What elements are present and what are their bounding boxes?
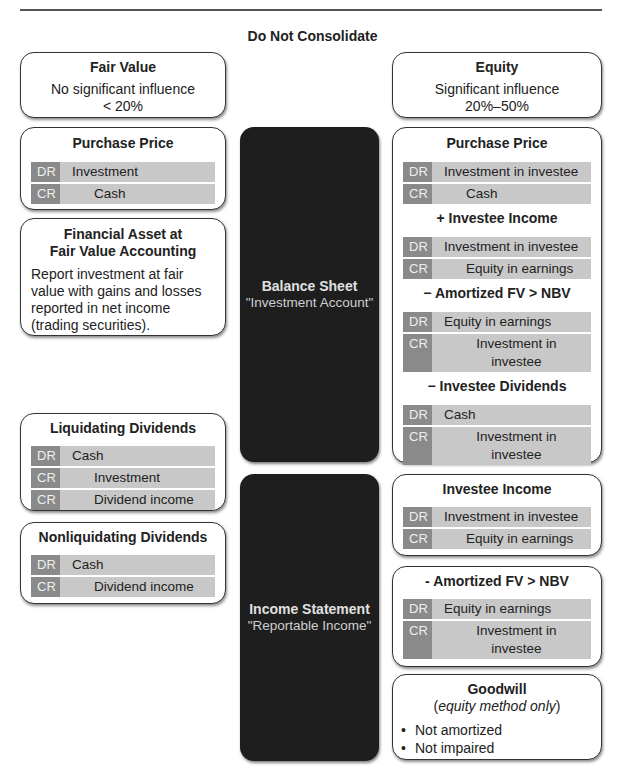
inc-investee-income-title: Investee Income <box>393 481 601 498</box>
equity-line1: Significant influence <box>393 81 601 98</box>
equity-title: Equity <box>393 59 601 76</box>
account-name: Investment in investee <box>432 237 591 257</box>
equity-header-box: Equity Significant influence 20%–50% <box>392 52 602 118</box>
liquidating-title: Liquidating Dividends <box>21 420 225 437</box>
goodwill-title: Goodwill <box>393 681 601 698</box>
eq-investee-income-title: + Investee Income <box>393 210 601 227</box>
journal-entry: DRCash <box>31 446 215 466</box>
debit-tag: DR <box>403 162 432 182</box>
equity-amortized-box: - Amortized FV > NBV DREquity in earning… <box>392 566 602 667</box>
income-statement-panel: Income Statement "Reportable Income" <box>240 474 379 761</box>
inc-amortized-title: - Amortized FV > NBV <box>393 573 601 590</box>
income-statement-title: Income Statement <box>240 601 379 618</box>
fair-value-title: Fair Value <box>21 59 225 76</box>
journal-entry: CREquity in earnings <box>403 259 591 279</box>
credit-tag: CR <box>31 577 60 597</box>
credit-tag: CR <box>31 490 60 510</box>
credit-tag: CR <box>403 529 432 549</box>
debit-tag: DR <box>403 405 432 425</box>
fv-purchase-price-box: Purchase Price DRInvestment CRCash <box>20 127 226 210</box>
nonliquidating-dividends-box: Nonliquidating Dividends DRCash CRDivide… <box>20 522 226 604</box>
fv-purchase-price-title: Purchase Price <box>21 135 225 152</box>
account-name: Investment <box>60 468 215 488</box>
journal-entry: CRCash <box>403 184 591 204</box>
financial-asset-title-1: Financial Asset at <box>21 226 225 243</box>
journal-entry: CRInvestment in investee <box>403 621 591 659</box>
journal-entry: CRDividend income <box>31 577 215 597</box>
diagram-title: Do Not Consolidate <box>0 28 625 44</box>
journal-entry: DRInvestment in investee <box>403 237 591 257</box>
equity-investee-income-box: Investee Income DRInvestment in investee… <box>392 474 602 556</box>
account-name: Cash <box>60 184 215 204</box>
goodwill-box: Goodwill (equity method only) Not amorti… <box>392 674 602 760</box>
account-name: Equity in earnings <box>432 259 591 279</box>
account-name: Equity in earnings <box>432 312 591 332</box>
account-name: Cash <box>432 405 591 425</box>
top-rule <box>20 9 602 11</box>
bullet-item: Not amortized <box>401 721 593 739</box>
account-name: Cash <box>432 184 591 204</box>
account-name: Investment in investee <box>432 427 591 465</box>
credit-tag: CR <box>403 621 432 659</box>
fair-value-line1: No significant influence <box>21 81 225 98</box>
journal-entry: CRInvestment in investee <box>403 334 591 372</box>
goodwill-subtitle-text: equity method only <box>438 698 556 714</box>
account-name: Investment in investee <box>432 334 591 372</box>
credit-tag: CR <box>403 334 432 372</box>
debit-tag: DR <box>403 237 432 257</box>
fair-value-line2: < 20% <box>21 98 225 115</box>
account-name: Cash <box>60 446 215 466</box>
journal-entry: DRInvestment in investee <box>403 162 591 182</box>
debit-tag: DR <box>403 507 432 527</box>
balance-sheet-panel: Balance Sheet "Investment Account" <box>240 127 379 462</box>
goodwill-bullet-list: Not amortized Not impaired <box>393 721 601 757</box>
account-name: Investment <box>60 162 215 182</box>
account-name: Equity in earnings <box>432 599 591 619</box>
liquidating-dividends-box: Liquidating Dividends DRCash CRInvestmen… <box>20 413 226 511</box>
credit-tag: CR <box>403 427 432 465</box>
credit-tag: CR <box>403 259 432 279</box>
journal-entry: DRCash <box>31 555 215 575</box>
account-name: Cash <box>60 555 215 575</box>
financial-asset-box: Financial Asset at Fair Value Accounting… <box>20 218 226 336</box>
goodwill-subtitle: (equity method only) <box>393 698 601 715</box>
account-name: Investment in investee <box>432 621 591 659</box>
journal-entry: CRDividend income <box>31 490 215 510</box>
balance-sheet-subtitle: "Investment Account" <box>240 295 379 311</box>
fair-value-header-box: Fair Value No significant influence < 20… <box>20 52 226 118</box>
eq-purchase-price-title: Purchase Price <box>393 135 601 152</box>
eq-amortized-title: − Amortized FV > NBV <box>393 285 601 302</box>
account-name: Equity in earnings <box>432 529 591 549</box>
journal-entry: CRCash <box>31 184 215 204</box>
income-statement-subtitle: "Reportable Income" <box>240 618 379 634</box>
debit-tag: DR <box>31 555 60 575</box>
debit-tag: DR <box>31 446 60 466</box>
equity-line2: 20%–50% <box>393 98 601 115</box>
journal-entry: DRInvestment in investee <box>403 507 591 527</box>
debit-tag: DR <box>403 312 432 332</box>
eq-dividends-title: − Investee Dividends <box>393 378 601 395</box>
journal-entry: DREquity in earnings <box>403 312 591 332</box>
credit-tag: CR <box>31 468 60 488</box>
journal-entry: DRCash <box>403 405 591 425</box>
debit-tag: DR <box>31 162 60 182</box>
journal-entry: DRInvestment <box>31 162 215 182</box>
financial-asset-title-2: Fair Value Accounting <box>21 243 225 260</box>
equity-balance-sheet-box: Purchase Price DRInvestment in investee … <box>392 127 602 463</box>
account-name: Dividend income <box>60 490 215 510</box>
financial-asset-text: Report investment at fair value with gai… <box>21 266 225 334</box>
balance-sheet-title: Balance Sheet <box>240 278 379 295</box>
nonliquidating-title: Nonliquidating Dividends <box>21 529 225 546</box>
journal-entry: DREquity in earnings <box>403 599 591 619</box>
journal-entry: CREquity in earnings <box>403 529 591 549</box>
bullet-item: Not impaired <box>401 739 593 757</box>
journal-entry: CRInvestment <box>31 468 215 488</box>
account-name: Dividend income <box>60 577 215 597</box>
account-name: Investment in investee <box>432 507 591 527</box>
account-name: Investment in investee <box>432 162 591 182</box>
credit-tag: CR <box>31 184 60 204</box>
credit-tag: CR <box>403 184 432 204</box>
debit-tag: DR <box>403 599 432 619</box>
journal-entry: CRInvestment in investee <box>403 427 591 465</box>
